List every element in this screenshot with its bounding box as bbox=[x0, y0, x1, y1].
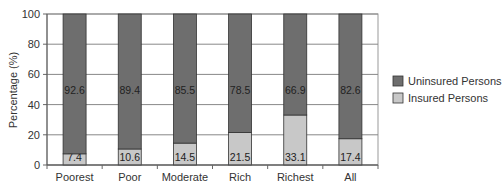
y-tick-label: 40 bbox=[28, 99, 40, 111]
data-label: 14.5 bbox=[175, 151, 196, 163]
legend-label: Insured Persons bbox=[408, 92, 489, 104]
y-tick-label: 0 bbox=[34, 159, 40, 171]
data-label: 10.6 bbox=[120, 151, 141, 163]
y-tick-label: 100 bbox=[22, 8, 40, 20]
data-label: 78.5 bbox=[230, 84, 251, 96]
x-tick-label: Poor bbox=[118, 171, 142, 183]
plot-area bbox=[47, 14, 378, 165]
x-tick-label: All bbox=[344, 171, 356, 183]
y-tick-label: 20 bbox=[28, 129, 40, 141]
legend: Uninsured PersonsInsured Persons bbox=[393, 75, 502, 104]
data-label: 89.4 bbox=[120, 84, 141, 96]
legend-label: Uninsured Persons bbox=[408, 75, 502, 87]
legend-swatch bbox=[393, 76, 403, 86]
gridlines bbox=[47, 14, 378, 165]
uninsured-bar-segment bbox=[118, 14, 141, 149]
uninsured-bar-segment bbox=[229, 14, 252, 133]
data-label: 21.5 bbox=[230, 151, 251, 163]
x-tick-label: Poorest bbox=[56, 171, 94, 183]
data-label: 66.9 bbox=[285, 84, 306, 96]
y-tick-label: 60 bbox=[28, 68, 40, 80]
uninsured-bar-segment bbox=[284, 14, 307, 115]
uninsured-bar-segment bbox=[173, 14, 196, 143]
uninsured-bar-segment bbox=[339, 14, 362, 139]
legend-swatch bbox=[393, 93, 403, 103]
stacked-bar-chart: 7.492.610.689.414.585.521.578.533.166.91… bbox=[0, 0, 503, 192]
data-label: 82.6 bbox=[340, 84, 361, 96]
y-tick-label: 80 bbox=[28, 38, 40, 50]
data-label: 92.6 bbox=[64, 84, 85, 96]
data-label: 33.1 bbox=[285, 151, 306, 163]
x-tick-label: Richest bbox=[277, 171, 314, 183]
x-tick-label: Moderate bbox=[162, 171, 208, 183]
data-label: 17.4 bbox=[340, 151, 361, 163]
x-tick-label: Rich bbox=[229, 171, 251, 183]
data-label: 85.5 bbox=[175, 84, 196, 96]
y-axis-label: Percentage (%) bbox=[7, 52, 19, 128]
